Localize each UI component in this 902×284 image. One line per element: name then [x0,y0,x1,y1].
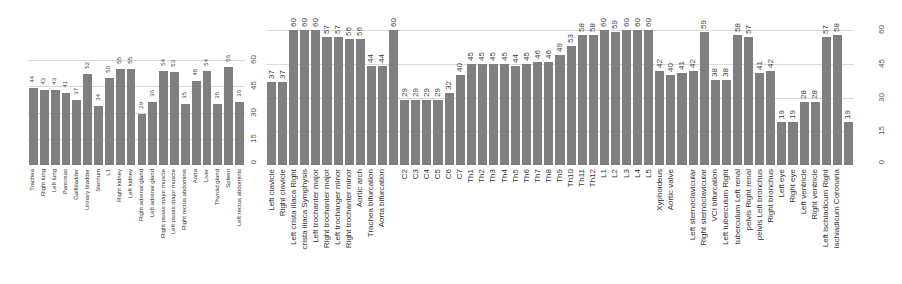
bar [138,114,147,165]
y-tick-label: 15 [250,134,258,143]
x-tick-label: Th7 [534,169,542,183]
value-label: 57 [745,25,753,34]
x-tick-label: Right trochanter minor [345,169,353,248]
value-label: 19 [789,110,797,119]
x-tick-label: L5 [645,169,653,178]
x-tick-label: Aorta bifurcation [378,169,386,227]
value-label: 56 [356,27,364,36]
y-tick-label: 0 [250,160,258,164]
y-tick-label: 45 [878,59,886,68]
value-label: 58 [578,23,586,32]
x-tick-label: Aortic valve [667,169,675,210]
gridline [28,86,245,87]
value-label: 45 [489,52,497,61]
x-tick-label: Right trochanter major [323,169,331,248]
bar [700,32,709,165]
x-tick-label: L3 [623,169,631,178]
landmark-dose-chart: 01530456037Left clavicle37Right clavicle… [266,5,902,284]
value-label: 41 [756,61,764,70]
organ-dose-chart: 01530456044Trachea43Right lung43Left lun… [28,10,268,280]
value-label: 29 [412,88,420,97]
value-label: 43 [40,78,46,85]
value-label: 59 [700,20,708,29]
value-label: 41 [678,61,686,70]
x-tick-label: VCI bifurcation [711,169,719,221]
x-tick-label: Right rectus abdominis [181,169,187,230]
value-label: 60 [600,18,608,27]
bar [411,100,420,165]
x-tick-label: Left trochanger minor [334,169,342,245]
value-label: 38 [722,68,730,77]
value-label: 38 [711,68,719,77]
value-label: 36 [149,90,155,97]
value-label: 56 [225,55,231,62]
bar [72,100,81,165]
y-tick-label: 60 [250,55,258,64]
x-tick-label: Left ventricle [800,169,808,214]
value-label: 37 [73,88,79,95]
x-tick-label: Xyphoideus [656,169,664,211]
value-label: 44 [512,54,520,63]
bar [600,30,609,165]
bar [289,30,298,165]
bar [633,30,642,165]
value-label: 19 [844,110,852,119]
value-label: 60 [623,18,631,27]
value-label: 40 [667,63,675,72]
x-tick-label: C5 [434,169,442,179]
y-tick-label: 45 [250,81,258,90]
x-tick-label: L4 [634,169,642,178]
x-tick-label: Th4 [501,169,509,183]
value-label: 45 [467,52,475,61]
value-label: 60 [634,18,642,27]
value-label: 35 [214,92,220,99]
bar [389,30,398,165]
value-label: 28 [811,90,819,99]
bar [378,66,387,165]
bar [224,67,233,165]
x-tick-label: C3 [412,169,420,179]
x-tick-label: tuberculum Left renal [734,169,742,244]
value-label: 34 [95,94,101,101]
value-label: 37 [279,70,287,79]
x-tick-label: Right bronchus [767,169,775,223]
bar [29,88,38,165]
x-tick-label: Right kidney [116,169,122,202]
value-label: 29 [423,88,431,97]
bar [777,122,786,165]
bar [578,35,587,166]
bar [689,71,698,166]
x-tick-label: Pancreas [62,169,68,194]
bar [148,102,157,165]
value-label: 57 [334,25,342,34]
bar [755,73,764,165]
bar [811,102,820,165]
value-label: 42 [656,59,664,68]
x-tick-label: Th6 [523,169,531,183]
bar [367,66,376,165]
x-tick-label: Left rectus abdominis [236,169,242,226]
value-label: 42 [767,59,775,68]
bar [456,75,465,165]
x-tick-label: pelvis Left bronchus [756,169,764,240]
x-tick-label: Left trochanter major [312,169,320,243]
bar [533,62,542,166]
value-label: 59 [611,20,619,29]
value-label: 53 [170,60,176,67]
bar [116,69,125,165]
bar [127,69,136,165]
value-label: 53 [567,34,575,43]
value-label: 36 [236,90,242,97]
bar [62,93,71,165]
bar [170,72,179,165]
value-label: 43 [51,78,57,85]
x-tick-label: Right adrenal gland [138,169,144,221]
bar [655,71,664,166]
x-tick-label: Sternum [95,169,101,192]
x-tick-label: Th12 [589,169,597,187]
bar [278,82,287,165]
bar [300,30,309,165]
x-tick-label: Right clavicle [279,169,287,216]
gridline [28,139,245,140]
x-tick-label: C6 [445,169,453,179]
